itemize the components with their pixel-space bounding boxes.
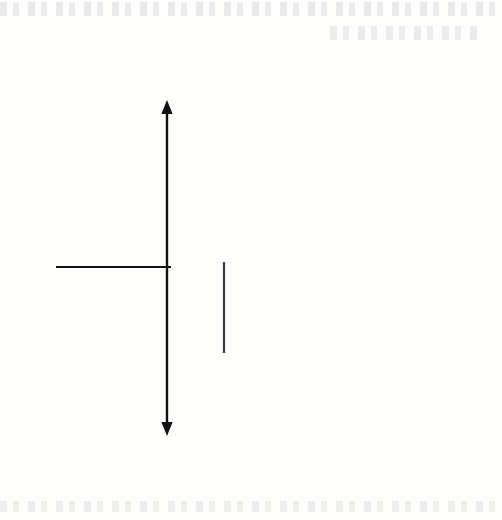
polar-plot bbox=[0, 0, 502, 520]
figure-canvas bbox=[0, 0, 502, 520]
